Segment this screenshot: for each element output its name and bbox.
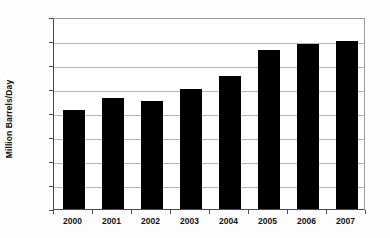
bar <box>219 76 241 209</box>
x-axis-tick-label: 2000 <box>53 216 93 226</box>
x-axis-tick-label: 2003 <box>170 216 210 226</box>
x-axis-tick-label: 2005 <box>248 216 288 226</box>
bar <box>141 101 163 209</box>
x-axis-tick-label: 2001 <box>92 216 132 226</box>
bar-chart: Million Barrels/Day 0.00.51.01.52.02.53.… <box>0 0 390 238</box>
x-axis-tick-mark <box>365 210 366 214</box>
x-axis-tick-label: 2004 <box>209 216 249 226</box>
x-axis-tick-label: 2007 <box>326 216 366 226</box>
x-axis-tick-mark <box>248 210 249 214</box>
bar <box>336 41 358 209</box>
plot-area <box>53 18 365 210</box>
x-axis-tick-label: 2006 <box>287 216 327 226</box>
x-axis-tick-mark <box>326 210 327 214</box>
x-axis-tick-mark <box>170 210 171 214</box>
bar <box>102 98 124 209</box>
x-axis-tick-mark <box>287 210 288 214</box>
bar <box>258 50 280 209</box>
bar <box>297 44 319 209</box>
bar <box>63 110 85 209</box>
x-axis-tick-mark <box>209 210 210 214</box>
bar <box>180 89 202 209</box>
x-axis-tick-label: 2002 <box>131 216 171 226</box>
x-axis-tick-mark <box>92 210 93 214</box>
x-axis-tick-mark <box>131 210 132 214</box>
x-axis-tick-mark <box>53 210 54 214</box>
y-axis-title: Million Barrels/Day <box>0 0 18 238</box>
